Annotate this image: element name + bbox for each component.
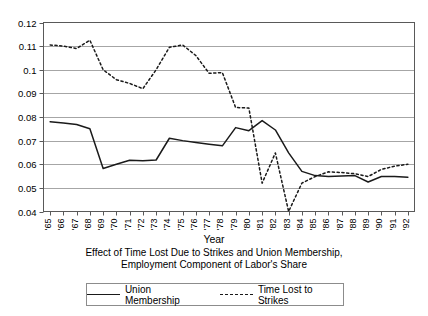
x-axis-tick-label: '66	[56, 219, 66, 231]
x-axis-tick-label: '68	[83, 219, 93, 231]
line-chart-svg: 0.040.050.060.070.080.090.10.110.12 '65'…	[0, 0, 428, 232]
x-axis-tick-label: '77	[202, 219, 212, 231]
x-axis-tick-label: '87	[335, 219, 345, 231]
x-axis-tick-label: '67	[70, 219, 80, 231]
x-axis-tick-label: '71	[123, 219, 133, 231]
x-axis-tick-label: '75	[176, 219, 186, 231]
y-axis-tick-label: 0.12	[18, 18, 37, 29]
x-axis-tick-label: '73	[149, 219, 159, 231]
x-axis-tick-label: '82	[268, 219, 278, 231]
x-axis-tick-label: '69	[96, 219, 106, 231]
x-axis-tick-label: '85	[308, 219, 318, 231]
series-line-union-membership	[50, 121, 408, 182]
caption-line-1: Effect of Time Lost Due to Strikes and U…	[0, 247, 428, 259]
caption-line-2: Employment Component of Labor's Share	[0, 259, 428, 271]
y-axis-tick-label: 0.05	[18, 183, 37, 194]
legend-swatch-dotted-line-icon	[220, 294, 253, 295]
y-axis-ticks	[40, 24, 44, 213]
x-axis-title: Year	[0, 233, 428, 245]
y-axis-tick-label: 0.08	[18, 112, 37, 123]
x-axis-tick-label: '83	[282, 219, 292, 231]
chart-figure: 0.040.050.060.070.080.090.10.110.12 '65'…	[0, 0, 428, 316]
figure-caption: Effect of Time Lost Due to Strikes and U…	[0, 247, 428, 270]
legend-swatch-solid-line-icon	[87, 294, 120, 295]
x-axis-tick-label: '76	[189, 219, 199, 231]
x-axis-tick-label: '65	[43, 219, 53, 231]
x-axis-tick-label: '81	[255, 219, 265, 231]
legend-label-union-membership: Union Membership	[125, 284, 206, 306]
x-axis-tick-label: '84	[295, 219, 305, 231]
y-axis-tick-label: 0.09	[18, 88, 37, 99]
x-axis-tick-label: '80	[242, 219, 252, 231]
x-axis-tick-labels: '65'66'67'68'69'70'71'72'73'74'75'76'77'…	[43, 219, 411, 231]
gridlines	[44, 47, 415, 189]
y-axis-tick-label: 0.1	[23, 65, 36, 76]
x-axis-tick-label: '92	[401, 219, 411, 231]
plot-area: 0.040.050.060.070.080.090.10.110.12 '65'…	[0, 0, 428, 232]
x-axis-tick-label: '70	[109, 219, 119, 231]
y-axis-tick-label: 0.04	[18, 207, 37, 218]
x-axis-tick-label: '88	[348, 219, 358, 231]
x-axis-tick-label: '74	[162, 219, 172, 231]
x-axis-tick-label: '89	[361, 219, 371, 231]
legend-label-time-lost-to-strikes: Time Lost to Strikes	[258, 284, 343, 306]
x-axis-tick-label: '78	[215, 219, 225, 231]
chart-legend: Union Membership Time Lost to Strikes	[86, 283, 344, 306]
series-line-time-lost-to-strikes	[50, 40, 408, 211]
y-axis-tick-label: 0.11	[19, 41, 37, 52]
x-axis-tick-label: '79	[229, 219, 239, 231]
x-axis-ticks	[51, 212, 409, 216]
x-axis-tick-label: '90	[374, 219, 384, 231]
y-axis-tick-labels: 0.040.050.060.070.080.090.10.110.12	[18, 18, 37, 218]
legend-item-union-membership: Union Membership	[87, 284, 206, 306]
legend-item-time-lost-to-strikes: Time Lost to Strikes	[220, 284, 343, 306]
y-axis-tick-label: 0.06	[18, 159, 37, 170]
x-axis-tick-label: '86	[321, 219, 331, 231]
x-axis-tick-label: '72	[136, 219, 146, 231]
y-axis-tick-label: 0.07	[18, 136, 37, 147]
x-axis-tick-label: '91	[388, 219, 398, 231]
